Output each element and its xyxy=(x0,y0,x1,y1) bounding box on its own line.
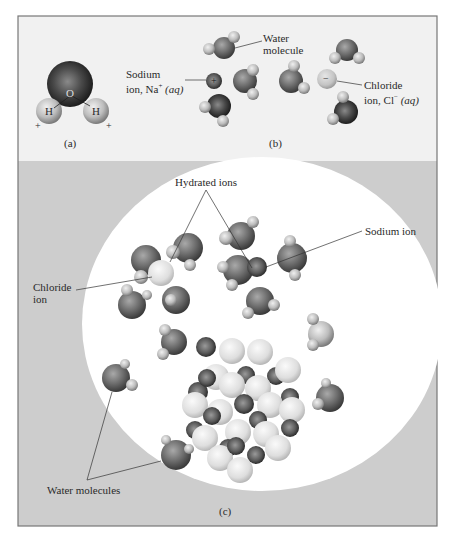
chloride-ion-label-c: Chloride ion xyxy=(33,281,72,305)
panel-c-caption: (c) xyxy=(219,505,231,517)
chloride-label-sup: − xyxy=(394,93,398,101)
water-molecules-label: Water molecules xyxy=(47,484,120,496)
sodium-charge-b: + xyxy=(211,75,217,87)
water-molecule-label-line1: Water xyxy=(263,32,303,44)
sodium-label-aq: (aq) xyxy=(165,83,183,95)
chloride-label-line1: Chloride xyxy=(364,79,419,91)
panel-a-caption: (a) xyxy=(64,137,76,149)
chloride-ion-label: Chloride ion, Cl− (aq) xyxy=(364,79,419,106)
charge-positive-right: + xyxy=(106,120,112,132)
chloride-label-aq: (aq) xyxy=(401,94,419,106)
sodium-ion-label-c: Sodium ion xyxy=(365,225,416,237)
water-molecule-label-line2: molecule xyxy=(263,44,303,56)
chloride-ion-label-c-line1: Chloride xyxy=(33,281,72,293)
hydrated-ions-label: Hydrated ions xyxy=(175,176,237,188)
sodium-ion-label: Sodium ion, Na+ (aq) xyxy=(126,68,183,95)
sodium-label-line1: Sodium xyxy=(126,68,183,80)
sodium-label-line2: ion, Na+ (aq) xyxy=(126,80,183,95)
sodium-ion-free-c xyxy=(196,337,216,357)
chloride-ion-label-c-line2: ion xyxy=(33,293,72,305)
oxygen-label: O xyxy=(66,87,74,99)
charge-positive-left: + xyxy=(35,120,41,132)
chloride-charge-b: − xyxy=(323,73,329,85)
chloride-label-line2: ion, Cl− (aq) xyxy=(364,91,419,106)
sodium-label-sup: + xyxy=(158,82,162,90)
sodium-label-prefix: ion, Na xyxy=(126,83,158,95)
hydrogen-left-label: H xyxy=(45,105,53,117)
charge-negative-a: − xyxy=(67,56,73,68)
chloride-label-prefix: ion, Cl xyxy=(364,94,394,106)
panel-b-caption: (b) xyxy=(269,137,282,149)
hydrated-chloride-ion-c xyxy=(148,260,174,286)
hydrated-sodium-ion-c xyxy=(247,257,267,277)
water-molecule-label: Water molecule xyxy=(263,32,303,56)
hydrogen-right-label: H xyxy=(92,105,100,117)
